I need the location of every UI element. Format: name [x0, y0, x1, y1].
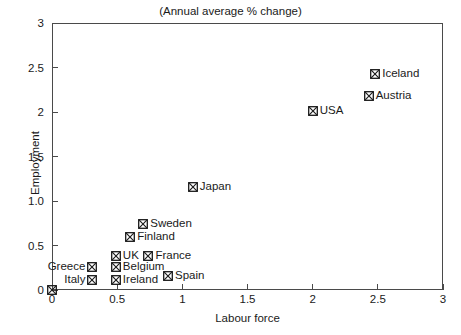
y-tick-label: 3	[0, 17, 44, 29]
x-tick	[312, 284, 313, 290]
x-tick	[182, 284, 183, 290]
data-point-label: Italy	[64, 274, 85, 285]
y-tick	[52, 156, 58, 157]
y-tick	[52, 201, 58, 202]
y-tick-label: 0.5	[0, 240, 44, 252]
y-tick	[52, 245, 58, 246]
chart-title: (Annual average % change)	[0, 5, 461, 17]
y-tick-label: 0	[0, 284, 44, 296]
x-tick-label: 2	[309, 293, 315, 305]
x-tick	[247, 284, 248, 290]
data-point-label: Belgium	[123, 261, 165, 272]
x-axis-label: Labour force	[52, 312, 443, 324]
data-point-label: Greece	[48, 261, 86, 272]
chart-figure: (Annual average % change) 00.511.522.53 …	[0, 0, 461, 335]
x-tick-label: 3	[440, 293, 446, 305]
x-tick-label: 1.5	[240, 293, 256, 305]
x-tick	[443, 284, 444, 290]
data-point-label: Austria	[376, 90, 412, 101]
x-tick-label: 0.5	[109, 293, 125, 305]
y-tick	[52, 23, 58, 24]
data-point-label: Iceland	[382, 68, 419, 79]
y-axis-label: Employment	[29, 103, 41, 223]
x-tick-label: 2.5	[370, 293, 386, 305]
x-tick-label: 1	[179, 293, 185, 305]
data-point-label: Japan	[200, 181, 231, 192]
data-point-label: Finland	[137, 231, 175, 242]
data-point-label: Spain	[175, 270, 204, 281]
y-tick	[52, 67, 58, 68]
data-point-label: Ireland	[123, 274, 158, 285]
data-point-label: USA	[320, 105, 344, 116]
plot-area	[52, 23, 443, 290]
y-tick	[52, 112, 58, 113]
x-tick	[377, 284, 378, 290]
y-tick-label: 2.5	[0, 62, 44, 74]
data-point-label: Sweden	[150, 218, 192, 229]
